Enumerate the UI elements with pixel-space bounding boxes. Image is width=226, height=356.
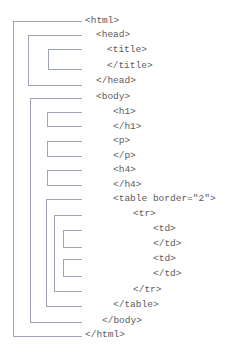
bracket-tr — [54, 215, 82, 292]
tag-body-open: <body> — [96, 91, 130, 103]
tag-p-open: <p> — [113, 135, 130, 147]
tag-h4-close: </h4> — [113, 179, 142, 191]
tag-td-1-open: <td> — [153, 223, 176, 235]
bracket-title — [48, 49, 82, 70]
tag-html-open: <html> — [85, 15, 119, 27]
tag-head-close: </head> — [96, 75, 136, 87]
bracket-td-1 — [63, 230, 82, 248]
bracket-td-2 — [63, 259, 82, 277]
tag-head-open: <head> — [96, 29, 130, 41]
tag-table-open: <table border="2"> — [113, 193, 216, 205]
tag-tr-close: </tr> — [133, 284, 162, 296]
html-tree-diagram: <html> <head> <title> </title> </head> <… — [0, 0, 226, 356]
bracket-p — [47, 141, 82, 157]
tag-h1-open: <h1> — [113, 106, 136, 118]
tag-table-close: </table> — [113, 299, 159, 311]
bracket-h1 — [47, 112, 82, 127]
tag-td-1-close: </td> — [153, 238, 182, 250]
tag-td-2-open: <td> — [153, 253, 176, 265]
tag-title-close: </title> — [107, 60, 153, 72]
tag-tr-open: <tr> — [133, 208, 156, 220]
tag-h4-open: <h4> — [113, 164, 136, 176]
tag-html-close: </html> — [85, 329, 125, 341]
tag-body-close: </body> — [102, 315, 142, 327]
tag-h1-close: </h1> — [113, 121, 142, 133]
bracket-h4 — [47, 170, 82, 186]
tag-title-open: <title> — [107, 44, 147, 56]
tag-p-close: </p> — [113, 150, 136, 162]
tag-td-2-close: </td> — [153, 268, 182, 280]
